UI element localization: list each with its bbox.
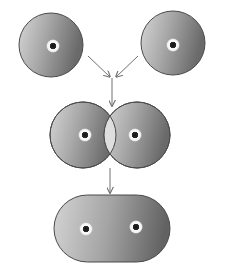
nucleus-icon — [47, 40, 60, 53]
nucleus-icon — [167, 39, 180, 52]
stage-separate-cells — [19, 11, 205, 77]
nucleus-icon — [80, 223, 93, 236]
cell-fusion-diagram — [0, 0, 230, 277]
nucleus-icon — [130, 221, 143, 234]
top-right-cell — [141, 11, 205, 75]
stage-fused-cell — [54, 195, 170, 262]
nucleus-icon — [79, 129, 92, 142]
converging-arrows — [88, 56, 138, 106]
arrow-from-right-icon — [116, 56, 138, 77]
stage-overlapping-cells — [50, 102, 170, 168]
fused-cell — [54, 195, 170, 262]
arrow-from-left-icon — [88, 56, 110, 77]
top-left-cell — [19, 13, 83, 77]
nucleus-icon — [129, 129, 142, 142]
